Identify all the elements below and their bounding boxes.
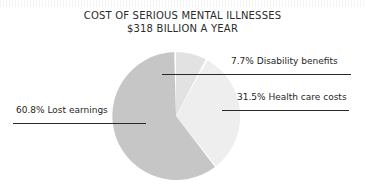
chart-title: COST OF SERIOUS MENTAL ILLNESSES $318 BI…: [0, 9, 365, 35]
chart-title-line-1: COST OF SERIOUS MENTAL ILLNESSES: [0, 9, 365, 22]
leader-line-health-care-costs: [222, 110, 349, 111]
pie-chart-figure: COST OF SERIOUS MENTAL ILLNESSES $318 BI…: [0, 0, 365, 193]
label-lost-earnings: 60.8% Lost earnings: [16, 105, 108, 116]
chart-title-line-2: $318 BILLION A YEAR: [0, 22, 365, 35]
pie-graphic: [112, 52, 240, 180]
leader-line-disability-benefits: [162, 74, 351, 75]
label-disability-benefits: 7.7% Disability benefits: [231, 56, 338, 67]
leader-line-lost-earnings: [13, 123, 146, 124]
label-health-care-costs: 31.5% Health care costs: [237, 92, 347, 103]
scan-artifact: [0, 0, 365, 7]
